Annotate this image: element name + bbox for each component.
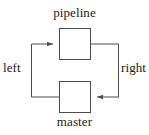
node-box-pipeline[interactable] <box>60 29 91 60</box>
edge-label-right: right <box>121 61 149 75</box>
edge-path-left[interactable] <box>32 44 60 97</box>
node-label-pipeline: pipeline <box>0 6 149 20</box>
edge-path-right[interactable] <box>91 44 119 97</box>
node-label-master: master <box>0 115 149 129</box>
diagram-canvas: pipeline master left right <box>0 0 149 135</box>
edge-label-left: left <box>3 61 29 75</box>
node-box-master[interactable] <box>60 82 91 113</box>
